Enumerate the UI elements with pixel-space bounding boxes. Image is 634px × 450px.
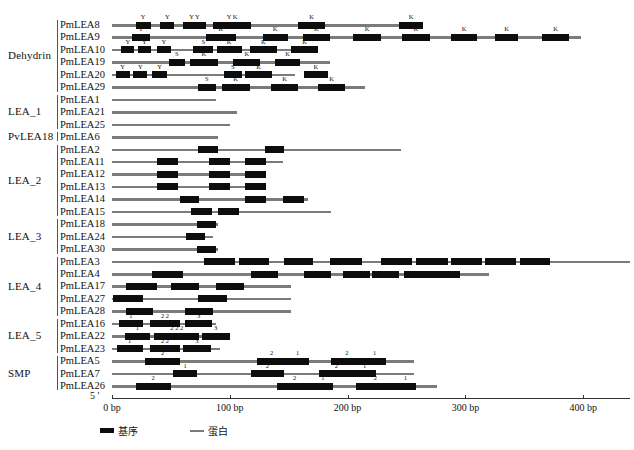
axis-tick-label: 100 bp — [200, 402, 260, 413]
legend-swatch-protein — [190, 430, 204, 432]
axis-tick-label: 300 bp — [435, 402, 495, 413]
axis-tick — [465, 395, 466, 398]
legend-label-motif: 基序 — [118, 423, 138, 438]
axis-tick — [348, 395, 349, 398]
axis-tick-label: 400 bp — [553, 402, 613, 413]
axis-tick — [583, 395, 584, 398]
axis-tick-label: 0 bp — [82, 402, 142, 413]
axis-tick — [112, 395, 113, 398]
axis-line — [112, 398, 630, 399]
legend-swatch-motif — [100, 428, 114, 433]
axis-five-prime-label: 5 ' — [90, 390, 99, 401]
bp-axis: 0 bp100 bp200 bp300 bp400 bp5 '3 ' — [0, 0, 634, 450]
lea-gene-motif-figure: DehydrinLEA_1PvLEA18LEA_2LEA_3LEA_4LEA_5… — [0, 0, 634, 450]
axis-tick — [230, 395, 231, 398]
figure-legend: 基序蛋白 — [0, 422, 634, 442]
axis-tick-label: 200 bp — [318, 402, 378, 413]
legend-label-protein: 蛋白 — [208, 423, 228, 438]
